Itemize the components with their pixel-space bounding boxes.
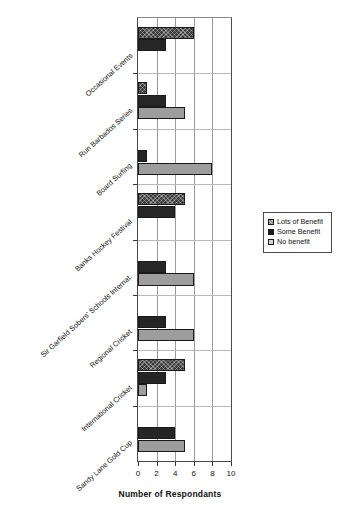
y-tick (133, 295, 137, 296)
category-separator (138, 184, 231, 185)
x-tick-label: 10 (221, 469, 241, 478)
legend-swatch-icon (268, 229, 274, 235)
y-tick (133, 350, 137, 351)
bar (138, 440, 185, 452)
bar (138, 163, 212, 175)
y-tick (133, 129, 137, 130)
legend: Lots of BenefitSome BenefitNo benefit (263, 212, 332, 253)
category-label: Sandy Lane Gold Cup (75, 438, 134, 493)
x-tick-label: 2 (147, 469, 167, 478)
x-tick (194, 462, 195, 466)
category-separator (138, 295, 231, 296)
category-label: Banks Hockey Festival (73, 217, 134, 273)
x-tick-label: 4 (165, 469, 185, 478)
bar (138, 316, 166, 328)
category-separator (138, 129, 231, 130)
category-label: Regional Cricket (88, 328, 134, 371)
x-tick (157, 462, 158, 466)
x-tick (231, 462, 232, 466)
legend-label: Some Benefit (277, 228, 320, 235)
category-label: Occasional Events (83, 51, 134, 98)
category-separator (138, 240, 231, 241)
x-tick-label: 8 (202, 469, 222, 478)
category-label: Board Surfing (95, 161, 134, 198)
y-tick (133, 240, 137, 241)
bar (138, 95, 166, 107)
bar (138, 273, 194, 285)
bar (138, 261, 166, 273)
x-tick (212, 462, 213, 466)
bar (138, 150, 147, 162)
legend-swatch-icon (268, 239, 274, 245)
legend-swatch-icon (268, 219, 274, 225)
bar (138, 39, 166, 51)
bar (138, 359, 185, 371)
category-label: Run Barbados Series (76, 106, 134, 159)
category-separator (138, 406, 231, 407)
bar-chart: 0246810 Occasional EventsRun Barbados Se… (0, 0, 340, 518)
category-label: International Cricket (80, 383, 134, 433)
bar (138, 427, 175, 439)
category-separator (138, 350, 231, 351)
legend-item: No benefit (268, 238, 328, 245)
x-tick (175, 462, 176, 466)
legend-label: No benefit (277, 238, 310, 245)
x-tick (138, 462, 139, 466)
bar (138, 107, 185, 119)
x-axis-title: Number of Respondants (0, 489, 340, 499)
x-tick-label: 0 (128, 469, 148, 478)
legend-item: Some Benefit (268, 228, 328, 235)
bar (138, 193, 185, 205)
plot-area (137, 17, 232, 462)
y-tick (133, 73, 137, 74)
bar (138, 329, 194, 341)
bar (138, 384, 147, 396)
y-tick (133, 406, 137, 407)
bar (138, 27, 194, 39)
category-separator (138, 73, 231, 74)
x-tick-label: 6 (184, 469, 204, 478)
bar (138, 82, 147, 94)
bar (138, 372, 166, 384)
legend-label: Lots of Benefit (277, 218, 323, 225)
bar (138, 206, 175, 218)
y-tick (133, 184, 137, 185)
legend-item: Lots of Benefit (268, 218, 328, 225)
